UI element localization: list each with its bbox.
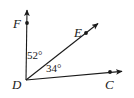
point-label-D: D — [12, 78, 21, 91]
angle-label-EDC: 34° — [46, 63, 61, 74]
angle-label-FDE: 52° — [27, 50, 42, 61]
geometry-figure: F E D C 52° 34° — [0, 0, 134, 98]
ray-DF — [26, 10, 27, 80]
point-dot-F — [25, 21, 29, 25]
point-label-C: C — [105, 78, 114, 91]
point-dot-E — [84, 31, 88, 35]
point-label-E: E — [74, 26, 82, 39]
point-dot-C — [108, 70, 112, 74]
point-label-F: F — [13, 17, 21, 30]
